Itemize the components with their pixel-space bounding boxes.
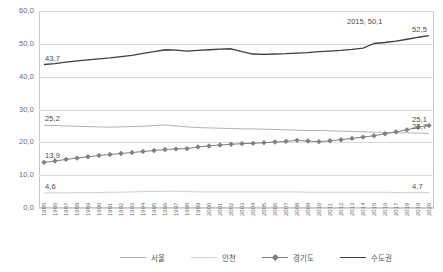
series-marker — [140, 149, 145, 154]
series-marker — [96, 153, 101, 158]
series-marker — [305, 138, 310, 143]
series-marker — [283, 139, 288, 144]
series-marker — [382, 131, 387, 136]
series-marker — [239, 141, 244, 146]
series-line — [44, 126, 429, 163]
series-marker — [63, 157, 68, 162]
series-marker — [228, 142, 233, 147]
series-marker — [85, 154, 90, 159]
series-marker — [107, 152, 112, 157]
legend-marker — [272, 254, 278, 260]
series-marker — [74, 155, 79, 160]
legend-swatch — [120, 253, 146, 262]
series-marker — [129, 150, 134, 155]
data-point-label: 4,6 — [45, 182, 56, 191]
series-line — [44, 191, 429, 193]
chart-legend: 서울인천경기도수도권 — [120, 252, 418, 263]
legend-item[interactable]: 경기도 — [262, 252, 314, 263]
legend-swatch — [262, 253, 288, 262]
legend-label: 인천 — [222, 252, 236, 263]
series-marker — [338, 137, 343, 142]
legend-label: 서울 — [151, 252, 165, 263]
series-marker — [206, 143, 211, 148]
legend-swatch — [340, 253, 366, 262]
series-marker — [118, 151, 123, 156]
annotation-label: 2015, 50,1 — [347, 17, 382, 26]
series-marker — [371, 133, 376, 138]
legend-label: 수도권 — [371, 252, 392, 263]
series-marker — [327, 138, 332, 143]
data-point-label: 43,7 — [45, 54, 60, 63]
series-line — [44, 125, 429, 134]
series-lines — [0, 0, 443, 272]
data-point-label: 52,5 — [412, 25, 427, 34]
series-marker — [360, 134, 365, 139]
legend-label: 경기도 — [293, 252, 314, 263]
series-marker — [316, 139, 321, 144]
series-marker — [294, 138, 299, 143]
series-marker — [195, 144, 200, 149]
series-marker — [250, 141, 255, 146]
series-marker — [41, 160, 46, 165]
series-marker — [162, 147, 167, 152]
legend-item[interactable]: 수도권 — [340, 252, 392, 263]
series-marker — [349, 136, 354, 141]
series-marker — [426, 123, 431, 128]
series-marker — [261, 140, 266, 145]
data-point-label: 22,7 — [412, 122, 427, 131]
data-point-label: 13,9 — [45, 151, 60, 160]
data-point-label: 4,7 — [412, 182, 423, 191]
line-chart: 60,050,040,030,020,010,00,0 198519861987… — [0, 0, 443, 272]
series-marker — [404, 127, 409, 132]
series-marker — [217, 142, 222, 147]
series-marker — [393, 129, 398, 134]
series-marker — [173, 146, 178, 151]
series-marker — [272, 139, 277, 144]
data-point-label: 25,2 — [45, 114, 60, 123]
legend-item[interactable]: 인천 — [191, 252, 236, 263]
series-marker — [184, 146, 189, 151]
legend-item[interactable]: 서울 — [120, 252, 165, 263]
legend-swatch — [191, 253, 217, 262]
series-line — [44, 36, 429, 65]
series-marker — [151, 148, 156, 153]
